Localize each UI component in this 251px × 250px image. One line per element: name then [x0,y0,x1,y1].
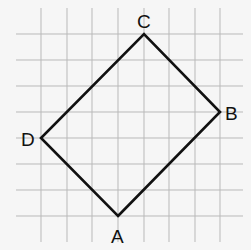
quadrilateral-abcd [41,34,220,216]
vertex-label-a: A [111,226,124,247]
vertex-label-b: B [225,103,238,124]
vertex-label-c: C [137,11,151,32]
diagram-canvas: A B C D [0,0,251,250]
vertex-label-d: D [21,129,35,150]
